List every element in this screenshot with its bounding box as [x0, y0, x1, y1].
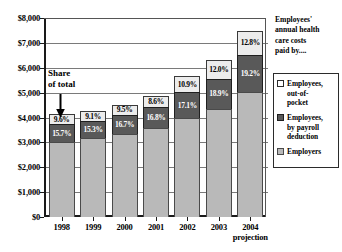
bar-segment-value-label: 19.2% — [238, 70, 262, 78]
y-axis-tick — [40, 217, 44, 218]
legend-item-label: Employers — [287, 147, 321, 157]
bar-segment-payroll[interactable]: 17.1% — [174, 92, 200, 118]
legend-item-label-line: Employees, — [287, 113, 323, 123]
bar-segment-employer[interactable] — [112, 134, 138, 217]
bar-segment-value-label: 18.9% — [207, 91, 231, 99]
bar-segment-payroll[interactable]: 18.9% — [206, 79, 232, 109]
bar-segment-employer[interactable] — [143, 128, 169, 217]
y-axis-label: $1,000 — [0, 187, 40, 197]
bar-segment-employer[interactable] — [237, 92, 263, 217]
bar-column[interactable]: 12.0%18.9% — [206, 60, 232, 217]
caption-line: Employees' — [275, 15, 339, 25]
bar-segment-value-label: 9.5% — [113, 107, 137, 115]
bar-segment-payroll[interactable]: 15.3% — [80, 121, 106, 138]
legend-item-label: Employees,by payrolldeduction — [287, 113, 323, 142]
legend-item-label-line: Employers — [287, 147, 321, 157]
bar-segment-value-label: 12.0% — [207, 66, 231, 74]
bar-segment-oop[interactable]: 10.9% — [174, 76, 200, 92]
y-axis-label: $8,000 — [0, 13, 40, 23]
bar-segment-oop[interactable]: 12.8% — [237, 31, 263, 55]
bar-segment-payroll[interactable]: 19.2% — [237, 55, 263, 92]
x-axis-label-line: projection — [226, 233, 274, 243]
bar-segment-value-label: 10.9% — [175, 81, 199, 89]
bar-segment-employer[interactable] — [49, 142, 75, 217]
y-axis-label: $7,000 — [0, 38, 40, 48]
annotation-line-1: Share — [48, 68, 75, 79]
bar-segment-value-label: 17.1% — [175, 102, 199, 110]
bar-column[interactable]: 10.9%17.1% — [174, 76, 200, 217]
legend-item-label-line: deduction — [287, 132, 323, 142]
bar-column[interactable]: 9.6%15.7% — [49, 114, 75, 217]
legend-item[interactable]: Employers — [277, 147, 335, 157]
bar-segment-employer[interactable] — [174, 118, 200, 217]
bar-segment-value-label: 8.6% — [144, 98, 168, 106]
bar-segment-employer[interactable] — [80, 138, 106, 217]
bar-segment-employer[interactable] — [206, 109, 232, 217]
share-of-total-annotation: Share of total — [48, 68, 75, 89]
bar-segment-value-label: 15.3% — [81, 126, 105, 134]
x-axis-tick — [156, 217, 157, 221]
bar-segment-value-label: 16.7% — [113, 121, 137, 129]
legend-item-label-line: pocket — [287, 98, 323, 108]
bar-segment-oop[interactable]: 9.1% — [80, 111, 106, 121]
x-axis-tick — [125, 217, 126, 221]
chart-caption: Employees'annual healthcare costspaid by… — [275, 15, 339, 56]
caption-line: annual health — [275, 25, 339, 35]
legend-item-label: Employees,out-of-pocket — [287, 79, 323, 108]
y-axis-label: $2,000 — [0, 162, 40, 172]
x-axis-tick — [62, 217, 63, 221]
y-axis-label: $6,000 — [0, 63, 40, 73]
legend-swatch-icon — [277, 80, 284, 87]
x-axis-tick — [219, 217, 220, 221]
bar-series-container: 9.6%15.7%9.1%15.3%9.5%16.7%8.6%16.8%10.9… — [46, 18, 266, 217]
annotation-line-2: of total — [48, 79, 75, 90]
caption-line: paid by.... — [275, 46, 339, 56]
x-axis-tick — [250, 217, 251, 221]
y-axis-label: $5,000 — [0, 88, 40, 98]
chart-root: $0$1,000$2,000$3,000$4,000$5,000$6,000$7… — [0, 0, 342, 252]
caption-line: care costs — [275, 36, 339, 46]
bar-segment-payroll[interactable]: 16.8% — [143, 107, 169, 128]
bar-column[interactable]: 12.8%19.2% — [237, 31, 263, 217]
legend-item-label-line: by payroll — [287, 123, 323, 133]
legend-item-label-line: out-of- — [287, 89, 323, 99]
y-axis-label: $4,000 — [0, 113, 40, 123]
x-axis-label: 2004projection — [226, 223, 274, 243]
x-axis-tick — [187, 217, 188, 221]
bar-column[interactable]: 8.6%16.8% — [143, 96, 169, 217]
bar-segment-oop[interactable]: 8.6% — [143, 96, 169, 107]
bar-segment-oop[interactable]: 9.5% — [112, 105, 138, 116]
down-arrow-icon — [56, 94, 65, 118]
legend-swatch-icon — [277, 148, 284, 155]
bar-segment-value-label: 9.1% — [81, 113, 105, 121]
legend-swatch-icon — [277, 114, 284, 121]
bar-segment-payroll[interactable]: 16.7% — [112, 115, 138, 134]
bar-segment-payroll[interactable]: 15.7% — [49, 124, 75, 141]
legend-item[interactable]: Employees,by payrolldeduction — [277, 113, 335, 142]
bar-segment-value-label: 12.8% — [238, 40, 262, 48]
y-axis-label: $3,000 — [0, 137, 40, 147]
x-axis-tick — [93, 217, 94, 221]
legend-item[interactable]: Employees,out-of-pocket — [277, 79, 335, 108]
bar-column[interactable]: 9.1%15.3% — [80, 111, 106, 217]
bar-column[interactable]: 9.5%16.7% — [112, 105, 138, 217]
bar-segment-value-label: 15.7% — [50, 130, 74, 138]
y-axis-label: $0 — [0, 212, 40, 222]
bar-segment-value-label: 16.8% — [144, 114, 168, 122]
bar-segment-oop[interactable]: 12.0% — [206, 60, 232, 79]
legend-item-label-line: Employees, — [287, 79, 323, 89]
chart-legend: Employees,out-of-pocketEmployees,by payr… — [273, 73, 339, 168]
